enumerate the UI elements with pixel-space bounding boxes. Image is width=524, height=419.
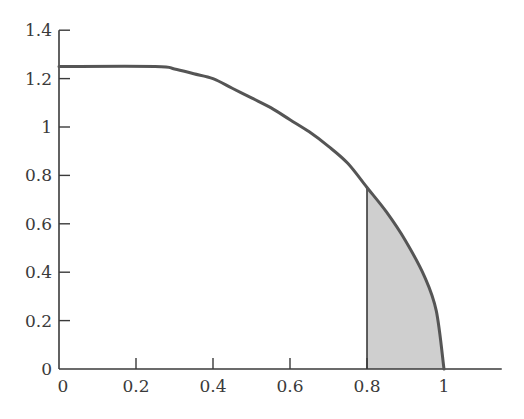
x-tick-label: 0.8 (353, 376, 380, 396)
y-tick-label: 1 (41, 117, 52, 137)
y-tick-label: 1.4 (25, 20, 52, 40)
x-tick-label: 0.6 (276, 376, 303, 396)
x-tick-label: 0 (58, 376, 69, 396)
x-tick-label: 0.2 (122, 376, 149, 396)
y-tick-label: 0.8 (25, 165, 52, 185)
chart: 00.20.40.60.811.21.4 00.20.40.60.81 (0, 0, 524, 419)
shaded-area (367, 188, 444, 370)
y-tick-label: 0.6 (25, 214, 52, 234)
shaded-region (367, 188, 444, 370)
x-tick-label: 1 (439, 376, 450, 396)
y-tick-label: 0.2 (25, 311, 52, 331)
y-tick-label: 1.2 (25, 69, 52, 89)
y-tick-label: 0 (41, 359, 52, 379)
x-tick-label: 0.4 (199, 376, 226, 396)
y-tick-label: 0.4 (25, 262, 52, 282)
y-axis-ticks: 00.20.40.60.811.21.4 (25, 20, 70, 379)
